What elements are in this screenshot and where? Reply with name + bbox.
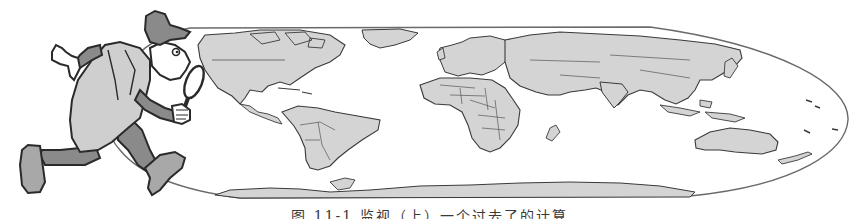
back-boot [20,145,45,193]
figure-caption: 图 11-1 监视（上）一个过去了的计算 [0,208,859,219]
front-hand [172,104,190,124]
world-map [108,27,848,198]
back-hand [52,45,80,80]
figure: 图 11-1 监视（上）一个过去了的计算 [0,0,859,219]
